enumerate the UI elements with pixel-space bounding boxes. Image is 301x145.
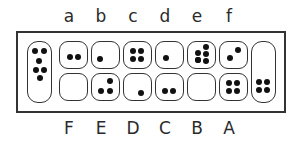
seed bbox=[67, 54, 73, 60]
pit-e bbox=[187, 41, 216, 69]
seed bbox=[235, 47, 241, 53]
mancala-board bbox=[16, 31, 286, 113]
seed bbox=[37, 75, 43, 81]
seed bbox=[33, 67, 39, 73]
seed bbox=[170, 88, 176, 94]
pit-d bbox=[155, 41, 184, 69]
seed bbox=[203, 58, 209, 64]
right-store bbox=[251, 41, 276, 103]
pit-f bbox=[219, 41, 248, 69]
seed bbox=[234, 88, 240, 94]
label-c: c bbox=[123, 8, 143, 25]
seed bbox=[226, 80, 232, 86]
label-D: D bbox=[123, 120, 143, 137]
pit-A bbox=[219, 73, 248, 101]
label-F: F bbox=[59, 120, 79, 137]
seed bbox=[130, 48, 136, 54]
label-E: E bbox=[91, 120, 111, 137]
pit-D bbox=[123, 73, 152, 101]
label-f: f bbox=[219, 8, 239, 25]
seed bbox=[163, 55, 169, 61]
pit-C bbox=[155, 73, 184, 101]
label-e: e bbox=[187, 8, 207, 25]
seed bbox=[234, 80, 240, 86]
seed bbox=[264, 79, 270, 85]
pit-B bbox=[187, 73, 216, 101]
seed bbox=[195, 57, 201, 63]
seed bbox=[138, 90, 144, 96]
seed bbox=[107, 88, 113, 94]
seed bbox=[107, 78, 113, 84]
pit-c bbox=[123, 41, 152, 69]
seed bbox=[138, 48, 144, 54]
pit-b bbox=[91, 41, 120, 69]
seed bbox=[226, 88, 232, 94]
pit-a bbox=[59, 41, 88, 69]
left-store bbox=[27, 41, 52, 103]
seed bbox=[162, 88, 168, 94]
label-A: A bbox=[219, 120, 239, 137]
seed bbox=[97, 56, 103, 62]
seed bbox=[195, 50, 201, 56]
seed bbox=[203, 51, 209, 57]
seed bbox=[256, 87, 262, 93]
label-B: B bbox=[187, 120, 207, 137]
label-C: C bbox=[155, 120, 175, 137]
seed bbox=[36, 58, 42, 64]
seed bbox=[227, 55, 233, 61]
label-b: b bbox=[91, 8, 111, 25]
seed bbox=[130, 56, 136, 62]
pit-E bbox=[91, 73, 120, 101]
seed bbox=[41, 48, 47, 54]
label-a: a bbox=[59, 8, 79, 25]
seed bbox=[32, 48, 38, 54]
seed bbox=[75, 54, 81, 60]
seed bbox=[98, 88, 104, 94]
seed bbox=[41, 67, 47, 73]
seed bbox=[203, 44, 209, 50]
seed bbox=[256, 79, 262, 85]
seed bbox=[138, 56, 144, 62]
seed bbox=[264, 87, 270, 93]
pit-F bbox=[59, 73, 88, 101]
label-d: d bbox=[155, 8, 175, 25]
